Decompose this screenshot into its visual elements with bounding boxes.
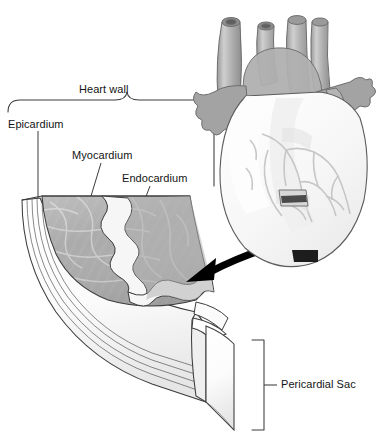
label-myocardium: Myocardium [72,149,132,162]
heart-anatomy-inset [193,16,375,267]
heart-wall-wedge [22,188,234,430]
heart-wall-illustration [0,0,377,439]
excision-window [279,190,308,206]
pericardial-sac-bracket [252,340,277,430]
label-pericardial-sac: Pericardial Sac [281,378,356,391]
excision-window-lower [292,250,318,262]
label-heart-wall: Heart wall [79,83,128,96]
label-endocardium: Endocardium [122,172,187,185]
label-epicardium: Epicardium [8,118,64,131]
figure-canvas: Heart wall Epicardium Myocardium Endocar… [0,0,377,439]
